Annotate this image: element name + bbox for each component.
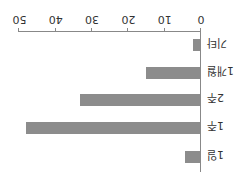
x-tick (200, 28, 201, 32)
x-tick-label: 20 (116, 13, 140, 26)
x-tick-label: 10 (153, 13, 177, 26)
y-axis-line (200, 32, 201, 172)
x-axis-line (19, 31, 202, 32)
bar-0 (185, 151, 200, 163)
x-tick-label: 40 (44, 13, 68, 26)
x-tick-label: 0 (189, 13, 213, 26)
bar-3 (146, 67, 200, 79)
category-label: 1개월 (207, 64, 241, 80)
category-label: 기타 (207, 36, 241, 52)
x-tick (19, 28, 20, 32)
x-tick (127, 28, 128, 32)
category-label: 1일 (207, 148, 241, 164)
x-tick (55, 28, 56, 32)
bar-4 (193, 39, 200, 51)
bar-1 (26, 122, 200, 134)
bar-chart: 010203040501일1주2주1개월기타 (0, 0, 242, 177)
x-tick (164, 28, 165, 32)
category-label: 2주 (207, 91, 241, 107)
x-tick-label: 50 (8, 13, 32, 26)
category-label: 1주 (207, 119, 241, 135)
bar-2 (80, 94, 200, 106)
x-tick-label: 30 (80, 13, 104, 26)
x-tick (91, 28, 92, 32)
